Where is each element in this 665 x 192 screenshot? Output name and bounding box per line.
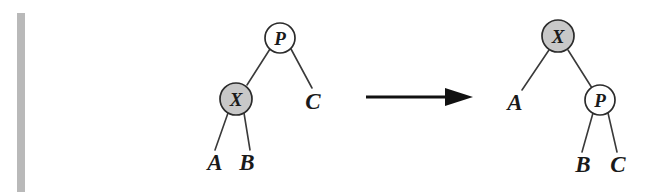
leaf-b-before: B — [238, 150, 254, 175]
edge-x-to-p-after — [568, 50, 592, 88]
before-tree: P X A B C — [205, 23, 321, 175]
node-p-after: P — [585, 85, 615, 115]
edge-p-to-x — [247, 49, 270, 85]
scan-margin-bar — [17, 13, 25, 192]
leaf-b-after: B — [574, 152, 590, 177]
transforms-to-arrow — [366, 88, 473, 106]
after-tree: X P A B C — [505, 20, 626, 177]
leaf-c-before: C — [305, 89, 321, 114]
edge-p-to-b-after — [582, 113, 593, 152]
edge-p-to-c-after — [608, 113, 617, 152]
node-p-after-label: P — [593, 90, 606, 111]
edge-x-to-a — [215, 113, 228, 150]
arrow-head — [445, 88, 473, 106]
node-x-after-label: X — [551, 26, 566, 47]
tree-rotation-figure: P X A B C X — [0, 0, 665, 192]
leaf-a-before: A — [205, 150, 222, 175]
node-p-before: P — [265, 23, 295, 53]
node-x-before: X — [220, 83, 252, 115]
edge-x-to-b — [244, 113, 250, 150]
leaf-a-after: A — [505, 90, 522, 115]
edge-x-to-a-after — [522, 50, 549, 90]
node-p-before-label: P — [273, 28, 286, 49]
figure-canvas: P X A B C X — [0, 0, 665, 192]
node-x-before-label: X — [229, 89, 244, 110]
leaf-c-after: C — [610, 152, 626, 177]
edge-p-to-c — [291, 49, 312, 88]
node-x-after: X — [542, 20, 574, 52]
